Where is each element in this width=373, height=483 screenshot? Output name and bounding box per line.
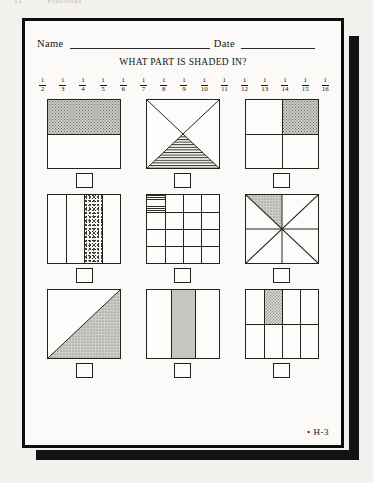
running-head: 11 Fractions bbox=[14, 0, 83, 5]
unit-fraction-scale: 12 13 14 15 16 17 18 19 110 111 112 113 … bbox=[39, 77, 329, 93]
fraction-1-9: 19 bbox=[180, 77, 187, 93]
fraction-1-10: 110 bbox=[201, 77, 208, 93]
figure-square-eight-wedges bbox=[245, 194, 319, 264]
problem-9 bbox=[232, 289, 331, 378]
divider-line-v2 bbox=[282, 290, 283, 358]
worksheet-page: Name Date WHAT PART IS SHADED IN? 12 13 … bbox=[22, 18, 344, 448]
answer-box-3[interactable] bbox=[273, 173, 290, 188]
fraction-1-8: 18 bbox=[160, 77, 167, 93]
answer-box-4[interactable] bbox=[76, 268, 93, 283]
problem-1 bbox=[35, 99, 134, 188]
fraction-1-13: 113 bbox=[261, 77, 268, 93]
fraction-1-11: 111 bbox=[221, 77, 228, 93]
running-head-section: Fractions bbox=[48, 0, 83, 5]
divider-line-v2 bbox=[183, 195, 184, 263]
shaded-region bbox=[48, 100, 120, 134]
problem-8 bbox=[134, 289, 233, 378]
fraction-1-4: 14 bbox=[79, 77, 86, 93]
problem-2 bbox=[134, 99, 233, 188]
divider-line-2 bbox=[84, 195, 85, 263]
problem-6 bbox=[232, 194, 331, 283]
figure-square-4x4-grid bbox=[146, 194, 220, 264]
fraction-1-14: 114 bbox=[281, 77, 288, 93]
fraction-1-6: 16 bbox=[120, 77, 127, 93]
answer-box-8[interactable] bbox=[174, 363, 191, 378]
shaded-region bbox=[264, 290, 282, 324]
problem-7 bbox=[35, 289, 134, 378]
divider-line-v3 bbox=[300, 290, 301, 358]
divider-line bbox=[48, 134, 120, 135]
figure-square-two-diagonals bbox=[146, 99, 220, 169]
figure-square-4x2-grid bbox=[245, 289, 319, 359]
page-shadow-right bbox=[349, 36, 359, 450]
problem-3 bbox=[232, 99, 331, 188]
divider-line-1 bbox=[171, 290, 172, 358]
answer-box-5[interactable] bbox=[174, 268, 191, 283]
page-shadow-bottom bbox=[36, 450, 359, 460]
fraction-1-7: 17 bbox=[140, 77, 147, 93]
shaded-region bbox=[147, 195, 165, 212]
figure-square-single-diagonal bbox=[47, 289, 121, 359]
worksheet-title: WHAT PART IS SHADED IN? bbox=[25, 57, 341, 67]
answer-box-7[interactable] bbox=[76, 363, 93, 378]
fraction-1-5: 15 bbox=[100, 77, 107, 93]
problem-5 bbox=[134, 194, 233, 283]
figure-square-halves-horizontal bbox=[47, 99, 121, 169]
divider-line-vertical bbox=[282, 100, 283, 168]
fraction-1-3: 13 bbox=[59, 77, 66, 93]
answer-box-9[interactable] bbox=[273, 363, 290, 378]
shaded-region bbox=[171, 290, 195, 358]
problem-4 bbox=[35, 194, 134, 283]
divider-line-1 bbox=[66, 195, 67, 263]
fraction-1-16: 116 bbox=[322, 77, 329, 93]
divider-line-v3 bbox=[201, 195, 202, 263]
running-head-page-number: 11 bbox=[14, 0, 23, 5]
answer-box-2[interactable] bbox=[174, 173, 191, 188]
name-date-row: Name Date bbox=[37, 33, 329, 49]
date-label: Date bbox=[214, 38, 235, 49]
fraction-1-12: 112 bbox=[241, 77, 248, 93]
answer-box-1[interactable] bbox=[76, 173, 93, 188]
fraction-1-2: 12 bbox=[39, 77, 46, 93]
date-write-in-line[interactable] bbox=[241, 37, 315, 49]
figure-square-four-vertical-strips bbox=[47, 194, 121, 264]
figure-square-quarters-grid bbox=[245, 99, 319, 169]
name-label: Name bbox=[37, 38, 64, 49]
divider-line-3 bbox=[102, 195, 103, 263]
figure-square-three-vertical-strips bbox=[146, 289, 220, 359]
shaded-region bbox=[84, 195, 102, 263]
divider-line-v1 bbox=[165, 195, 166, 263]
worksheet-code: • H-3 bbox=[307, 427, 329, 437]
shaded-region bbox=[147, 134, 219, 168]
fraction-1-15: 115 bbox=[302, 77, 309, 93]
divider-line-v1 bbox=[264, 290, 265, 358]
answer-box-6[interactable] bbox=[273, 268, 290, 283]
divider-line-2 bbox=[195, 290, 196, 358]
problem-grid bbox=[35, 99, 331, 378]
name-write-in-line[interactable] bbox=[70, 37, 210, 49]
shaded-region bbox=[282, 100, 318, 134]
